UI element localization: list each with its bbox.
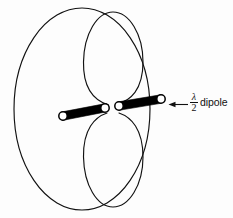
left-arm-outer-terminal-icon: [59, 112, 67, 120]
left-arm-feed-terminal-icon: [101, 104, 109, 112]
dipole-annotation-label: λ 2 dipole: [190, 92, 227, 112]
annotation-arrow-head-icon: [169, 102, 176, 108]
half-wavelength-fraction: λ 2: [190, 92, 198, 112]
fraction-denominator-two: 2: [191, 103, 198, 112]
lower-lobe-path: [83, 113, 143, 207]
fraction-numerator-lambda: λ: [191, 92, 197, 101]
upper-lobe-path: [83, 12, 143, 105]
dipole-label-text: dipole: [200, 97, 227, 108]
antenna-pattern-figure: λ 2 dipole: [0, 0, 233, 218]
left-dipole-arm: [62, 104, 106, 121]
right-dipole-arm: [119, 95, 162, 111]
right-arm-feed-terminal-icon: [115, 102, 123, 110]
right-arm-outer-terminal-icon: [157, 95, 165, 103]
